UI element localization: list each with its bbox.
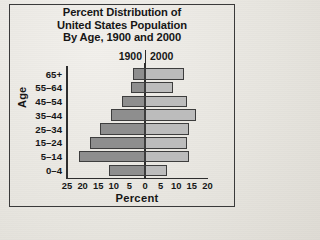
age-group-label: 35–44 [2,110,62,121]
x-axis-label: Percent [66,192,208,204]
age-group-label: 25–34 [2,124,62,135]
age-group-label: 0–4 [2,165,62,176]
age-group-label: 55–64 [2,82,62,93]
bar-rows: 65+55–6445–5435–4425–3415–245–140–4 [0,67,250,177]
pyramid-row: 15–24 [0,136,250,150]
bar-2000 [145,165,167,177]
pyramid-row: 5–14 [0,150,250,164]
pyramid-row: 0–4 [0,164,250,178]
x-tick-label: 10 [171,180,181,191]
legend-item-1900: 1900 [104,50,142,62]
pyramid-row: 45–54 [0,95,250,109]
bar-1900 [122,96,145,108]
age-group-label: 5–14 [2,151,62,162]
bar-2000 [145,82,173,94]
pyramid-row: 25–34 [0,122,250,136]
x-tick-label: 25 [62,180,72,191]
bar-1900 [79,151,145,163]
x-tick-label: 5 [158,180,163,191]
bar-1900 [109,165,145,177]
x-tick-label: 5 [127,180,132,191]
bar-1900 [90,137,145,149]
x-axis-ticks: 25201510505101520 [0,180,250,192]
x-tick-label: 10 [109,180,119,191]
legend-item-2000: 2000 [150,50,190,62]
bar-2000 [145,109,196,121]
age-group-label: 45–54 [2,96,62,107]
x-tick-label: 20 [202,180,212,191]
x-tick-label: 15 [93,180,103,191]
age-group-label: 65+ [2,69,62,80]
bar-2000 [145,137,187,149]
bar-2000 [145,68,184,80]
bar-2000 [145,96,187,108]
bar-2000 [145,123,189,135]
x-tick-label: 0 [142,180,147,191]
population-pyramid-plot: 1900 2000 Age 65+55–6445–5435–4425–3415–… [0,0,250,216]
pyramid-row: 35–44 [0,108,250,122]
bar-1900 [131,82,145,94]
age-group-label: 15–24 [2,137,62,148]
bar-1900 [100,123,145,135]
chart-legend: 1900 2000 [104,50,200,65]
bar-1900 [111,109,145,121]
pyramid-row: 55–64 [0,81,250,95]
x-tick-label: 20 [77,180,87,191]
pyramid-row: 65+ [0,67,250,81]
x-tick-label: 15 [187,180,197,191]
x-axis-line [66,178,208,180]
bar-2000 [145,151,189,163]
bar-1900 [133,68,145,80]
